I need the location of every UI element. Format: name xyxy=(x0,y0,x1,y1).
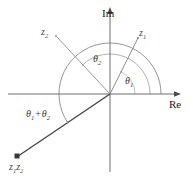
angle-sum-subscript2: 2 xyxy=(47,114,50,121)
vector-z2-label: z2 xyxy=(41,27,48,40)
angle-theta2-subscript: 2 xyxy=(98,59,101,66)
arc-theta2-endpoint-tick xyxy=(82,64,84,66)
angle-theta1-label: θ1 xyxy=(125,76,133,89)
angle-theta2-label: θ2 xyxy=(93,54,101,67)
arc-sum-endpoint-tick xyxy=(67,122,69,124)
complex-plane-diagram: Im Re z1 z2 z1z2 θ1 θ2 θ1+θ2 xyxy=(0,0,193,179)
vector-z1z2-endpoint-marker xyxy=(15,154,20,159)
real-axis-arrowhead xyxy=(174,91,181,97)
real-axis-label: Re xyxy=(169,99,181,110)
vector-z2-label-subscript: 2 xyxy=(45,32,48,39)
imaginary-axis-label: Im xyxy=(102,8,114,19)
angle-sum-operator: + xyxy=(34,108,42,119)
vector-z1z2 xyxy=(18,94,111,157)
vector-z1z2-label-subscript2: 2 xyxy=(20,167,23,174)
diagram-canvas xyxy=(0,0,193,179)
vector-z2-endpoint xyxy=(55,35,57,37)
arc-theta1-endpoint-tick xyxy=(120,71,122,73)
angle-theta1-subscript: 1 xyxy=(130,81,133,88)
vector-z1z2-label: z1z2 xyxy=(9,162,23,175)
angle-sum-label: θ1+θ2 xyxy=(26,109,50,122)
vector-z1-label-subscript: 1 xyxy=(143,33,146,40)
vector-z1-label: z1 xyxy=(139,28,146,41)
